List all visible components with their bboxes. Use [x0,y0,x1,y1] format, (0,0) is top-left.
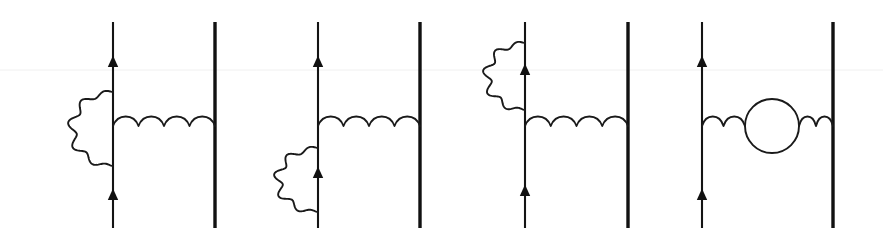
feynman-diagram-figure [0,0,883,243]
feynman-diagram-canvas [0,0,883,243]
figure-background [0,0,883,243]
